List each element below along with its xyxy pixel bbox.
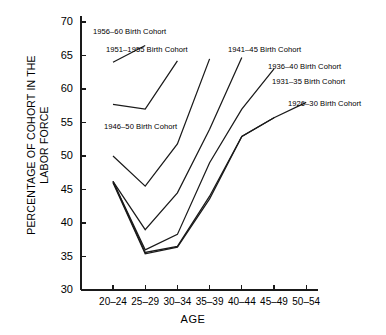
axes-lines	[81, 16, 318, 290]
y-tick-label: 35	[47, 250, 73, 262]
y-tick-label: 50	[47, 149, 73, 161]
series-line-1	[113, 61, 177, 109]
x-tick-label: 50–54	[284, 296, 328, 307]
series-label: 1956–60 Birth Cohort	[93, 27, 166, 36]
y-tick-label: 70	[47, 15, 73, 27]
y-tick-label: 45	[47, 183, 73, 195]
y-tick-label: 30	[47, 283, 73, 295]
series-label: 1951–1955 Birth Cohort	[106, 45, 188, 54]
y-tick-label: 55	[47, 116, 73, 128]
x-axis-title: AGE	[0, 313, 386, 325]
chart-figure: PERCENTAGE OF COHORT IN THE LABOR FORCE …	[0, 0, 386, 335]
y-tick-label: 40	[47, 216, 73, 228]
y-tick-label: 65	[47, 49, 73, 61]
series-label: 1926–30 Birth Cohort	[288, 99, 361, 108]
series-label: 1931–35 Birth Cohort	[272, 77, 345, 86]
y-tick-label: 60	[47, 82, 73, 94]
series-label: 1946–50 Birth Cohort	[104, 122, 177, 131]
series-label: 1936–40 Birth Cohort	[268, 62, 341, 71]
series-label: 1941–45 Birth Cohort	[228, 45, 301, 54]
